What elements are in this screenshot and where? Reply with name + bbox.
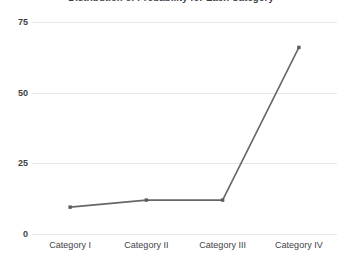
y-tick-label: 0 xyxy=(2,229,28,239)
line-chart: Distribution of Probability for Each Cat… xyxy=(0,0,342,263)
x-tick-label: Category I xyxy=(49,240,91,250)
y-axis: 0255075 xyxy=(0,22,28,234)
x-tick-label: Category IV xyxy=(275,240,323,250)
x-tick-label: Category II xyxy=(124,240,168,250)
y-tick-label: 50 xyxy=(2,88,28,98)
data-point-marker xyxy=(68,205,71,208)
data-point-marker xyxy=(297,46,300,49)
x-axis: Category ICategory IICategory IIICategor… xyxy=(32,240,337,256)
data-point-marker xyxy=(221,198,224,201)
gridline xyxy=(32,234,337,235)
series-line xyxy=(70,47,299,207)
data-point-marker xyxy=(145,198,148,201)
plot-area xyxy=(32,22,337,234)
x-tick-label: Category III xyxy=(199,240,246,250)
series-markers xyxy=(68,46,300,209)
chart-title: Distribution of Probability for Each Cat… xyxy=(0,0,342,3)
y-tick-label: 25 xyxy=(2,158,28,168)
series-probability xyxy=(32,22,337,234)
y-tick-label: 75 xyxy=(2,17,28,27)
